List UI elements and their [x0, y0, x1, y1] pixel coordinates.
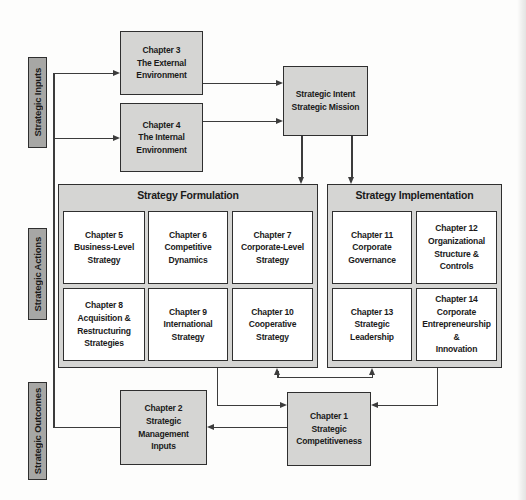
box-chapter-6-competitive-dynamics: Chapter 6 Competitive Dynamics [148, 211, 228, 284]
box-chapter-2-strategic-management-inputs: Chapter 2 Strategic Management Inputs [120, 390, 207, 465]
box-chapter-6-label: Chapter 6 Competitive Dynamics [153, 229, 223, 267]
box-chapter-11-corporate-governance: Chapter 11 Corporate Governance [332, 211, 412, 284]
box-chapter-4-internal-environment: Chapter 4 The Internal Environment [120, 103, 203, 172]
connector-intent-to-formulation [301, 136, 303, 178]
box-chapter-10-cooperative-strategy: Chapter 10 Cooperative Strategy [232, 288, 313, 361]
box-chapter-10-label: Chapter 10 Cooperative Strategy [237, 306, 308, 344]
side-label-strategic-actions-text: Strategic Actions [32, 237, 42, 311]
box-chapter-4-label: Chapter 4 The Internal Environment [125, 119, 198, 157]
section-strategy-formulation-title: Strategy Formulation [59, 189, 317, 201]
box-chapter-5-business-level-strategy: Chapter 5 Business-Level Strategy [63, 211, 145, 284]
arrowhead-into-chapter-3 [113, 70, 120, 76]
side-label-strategic-inputs: Strategic Inputs [28, 57, 47, 148]
box-chapter-1-strategic-competitiveness: Chapter 1 Strategic Competitiveness [287, 392, 371, 466]
connector-chapter-3-to-intent [203, 83, 278, 85]
page-edge-shadow [517, 0, 526, 500]
connector-inputs-to-chapter-4 [53, 138, 117, 140]
box-chapter-9-label: Chapter 9 International Strategy [153, 306, 223, 344]
arrowhead-into-implementation [348, 177, 354, 184]
box-chapter-12-organizational-structure: Chapter 12 Organizational Structure & Co… [416, 211, 497, 284]
side-label-strategic-outcomes-text: Strategic Outcomes [32, 388, 42, 474]
strategic-management-diagram: Strategic Inputs Strategic Actions Strat… [0, 0, 526, 500]
box-chapter-8-label: Chapter 8 Acquisition & Restructuring St… [68, 299, 140, 349]
box-strategic-intent-mission: Strategic Intent Strategic Mission [283, 66, 368, 136]
box-chapter-8-acquisition-restructuring: Chapter 8 Acquisition & Restructuring St… [63, 288, 145, 361]
connector-implementation-to-chapter-1 [377, 405, 438, 407]
arrowhead-into-chapter-4 [113, 135, 120, 141]
side-label-strategic-outcomes: Strategic Outcomes [28, 382, 47, 480]
arrowhead-into-intent-upper [276, 80, 283, 86]
box-chapter-7-corporate-level-strategy: Chapter 7 Corporate-Level Strategy [232, 211, 313, 284]
box-chapter-9-international-strategy: Chapter 9 International Strategy [148, 288, 228, 361]
box-chapter-11-label: Chapter 11 Corporate Governance [337, 229, 407, 267]
box-strategic-intent-label: Strategic Intent Strategic Mission [288, 88, 363, 113]
section-strategy-implementation-title: Strategy Implementation [328, 189, 501, 201]
arrowhead-into-formulation [298, 177, 304, 184]
box-chapter-3-external-environment: Chapter 3 The External Environment [120, 31, 203, 95]
side-label-strategic-inputs-text: Strategic Inputs [32, 68, 42, 137]
arrowhead-into-chapter-1-left [280, 402, 287, 408]
connector-formulation-down [217, 368, 219, 406]
connector-chapter-2-feedback [53, 427, 120, 429]
connector-implementation-down [437, 368, 439, 406]
connector-chapter-1-to-chapter-2 [213, 427, 287, 429]
box-chapter-1-label: Chapter 1 Strategic Competitiveness [292, 410, 366, 448]
feedback-bar-above-chapter-1 [277, 377, 373, 379]
connector-intent-to-implementation [351, 136, 353, 178]
connector-inputs-to-chapter-3 [53, 73, 117, 75]
box-chapter-3-label: Chapter 3 The External Environment [125, 44, 198, 82]
box-chapter-14-label: Chapter 14 Corporate Entrepreneurship & … [421, 293, 492, 356]
box-chapter-14-corporate-entrepreneurship: Chapter 14 Corporate Entrepreneurship & … [416, 288, 497, 361]
connector-formulation-to-chapter-1 [217, 405, 282, 407]
feedback-vertical-line [53, 73, 55, 429]
box-chapter-12-label: Chapter 12 Organizational Structure & Co… [421, 222, 492, 272]
arrowhead-into-chapter-2 [207, 424, 214, 430]
connector-chapter-4-to-intent [203, 121, 278, 123]
side-label-strategic-actions: Strategic Actions [28, 228, 47, 320]
box-chapter-7-label: Chapter 7 Corporate-Level Strategy [237, 229, 308, 267]
arrowhead-up-into-implementation [369, 368, 375, 375]
arrowhead-into-chapter-1-right [371, 402, 378, 408]
arrowhead-up-into-formulation [274, 368, 280, 375]
box-chapter-2-label: Chapter 2 Strategic Management Inputs [125, 402, 202, 452]
arrowhead-into-intent-lower [276, 118, 283, 124]
box-chapter-13-strategic-leadership: Chapter 13 Strategic Leadership [332, 288, 412, 361]
box-chapter-13-label: Chapter 13 Strategic Leadership [337, 306, 407, 344]
box-chapter-5-label: Chapter 5 Business-Level Strategy [68, 229, 140, 267]
